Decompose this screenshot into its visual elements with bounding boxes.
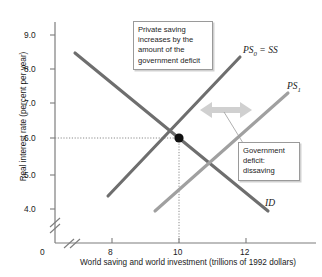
ps1-subscript: 1 [298,86,301,93]
equilibrium-point-marker [174,133,183,142]
annotation-government-deficit: Government deficit: dissaving [238,142,300,181]
x-tick-label-10: 10 [173,247,182,257]
y-tick-label-4: 4.0 [24,204,36,214]
curve-investment-demand [75,53,268,211]
ps0-equals-ss: = SS [257,45,278,55]
x-tick-label-8: 8 [108,247,113,257]
curve-private-saving-initial [108,57,240,196]
curve-label-id: ID [265,198,275,208]
ps0-text: PS [243,45,254,55]
figure-economics-saving-investment: 4.0 5.0 6.0 7.0 8.0 9.0 0 8 10 12 World … [0,0,322,277]
x-tick-label-0: 0 [40,247,45,257]
x-tick-label-12: 12 [240,247,249,257]
curve-label-ps1: PS1 [287,81,301,93]
curve-label-ps0: PS0 = SS [243,45,278,57]
y-tick-marks [50,35,55,209]
y-axis-title: Real interest rate (percent per year) [19,32,28,202]
x-axis-title: World saving and world investment (trill… [80,258,296,267]
ps1-text: PS [287,81,298,91]
annotation-private-saving: Private saving increases by the amount o… [133,21,213,70]
